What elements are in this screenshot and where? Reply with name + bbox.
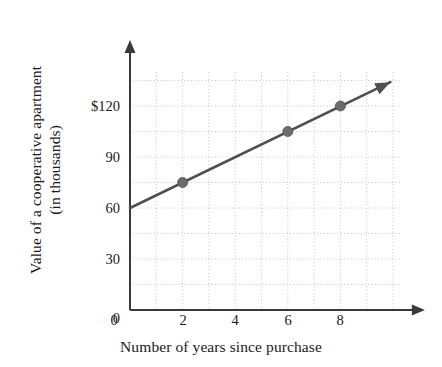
trend-line bbox=[130, 82, 390, 208]
chart-root: Value of a cooperative apartment (in tho… bbox=[0, 0, 442, 367]
data-series-line bbox=[130, 82, 390, 208]
grid-horizontal-lines bbox=[130, 81, 401, 285]
grid-vertical-lines bbox=[156, 72, 393, 310]
y-axis-arrowhead bbox=[125, 40, 136, 53]
axes bbox=[125, 40, 425, 316]
plot-area bbox=[0, 0, 442, 367]
trend-line-arrowhead bbox=[374, 82, 390, 94]
x-axis-arrowhead bbox=[412, 305, 425, 316]
